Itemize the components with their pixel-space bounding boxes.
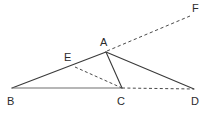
segment-CD (122, 88, 194, 89)
geometry-figure: F A E B C D (0, 0, 205, 118)
segment-BA (12, 52, 106, 88)
vertex-label-F: F (192, 3, 199, 14)
vertex-label-D: D (191, 96, 199, 107)
vertex-label-B: B (7, 96, 14, 107)
segment-AF (107, 16, 190, 51)
vertex-label-E: E (64, 52, 71, 63)
vertex-label-A: A (100, 37, 107, 48)
vertex-label-C: C (117, 96, 125, 107)
geometry-canvas (0, 0, 205, 118)
segment-EC (75, 67, 122, 88)
segment-AD (106, 52, 194, 89)
